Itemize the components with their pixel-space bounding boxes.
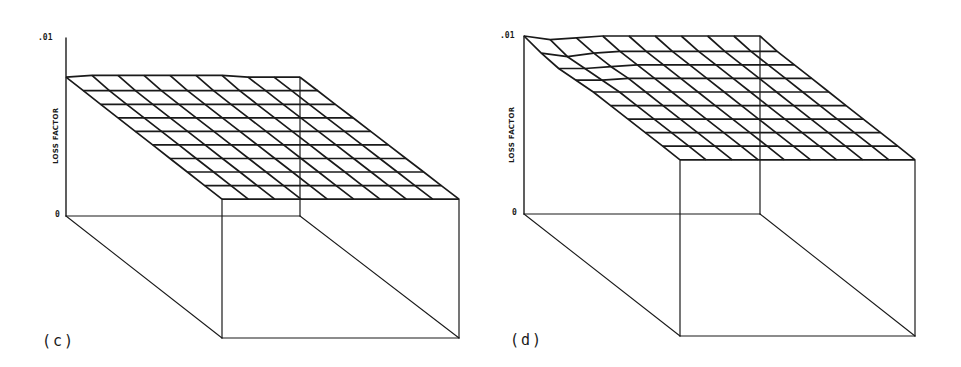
chart-panel-d: .01 0 LOSS FACTOR (d) xyxy=(0,0,961,367)
ztick-zero-d: 0 xyxy=(512,208,517,217)
base-right-edge xyxy=(760,214,915,336)
surface-row-line xyxy=(576,78,812,80)
surface-row-line xyxy=(559,65,795,69)
panel-label-d: (d) xyxy=(510,331,543,349)
base-left-edge xyxy=(524,214,680,336)
zaxis-label-d: LOSS FACTOR xyxy=(508,107,516,163)
surface-col-line xyxy=(576,38,732,160)
ztick-top-d: .01 xyxy=(500,31,514,40)
surface-row-line xyxy=(524,36,760,40)
surface-row-line xyxy=(541,51,777,56)
surface-plot-d xyxy=(0,0,961,367)
